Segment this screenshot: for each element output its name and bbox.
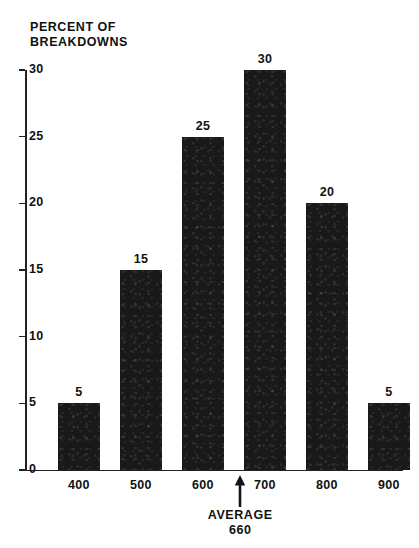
- bar-value-label-400: 5: [46, 385, 112, 399]
- x-axis-label-800: 800: [294, 478, 360, 492]
- x-axis-label-600: 600: [170, 478, 236, 492]
- bar-value-label-900: 5: [356, 385, 419, 399]
- plot-area: 051015202530 5152530205 4005006007008009…: [0, 0, 419, 548]
- y-tick-mark: [19, 203, 25, 205]
- y-tick-mark: [19, 403, 25, 405]
- y-tick-mark: [19, 136, 25, 138]
- bar-value-label-500: 15: [108, 252, 174, 266]
- y-tick-mark: [19, 69, 25, 71]
- y-tick-mark: [19, 336, 25, 338]
- bar-chart: PERCENT OF BREAKDOWNS 051015202530 51525…: [0, 0, 419, 548]
- y-tick-mark: [19, 469, 25, 471]
- x-axis-label-900: 900: [356, 478, 419, 492]
- x-axis-label-500: 500: [108, 478, 174, 492]
- y-tick-label: 10: [29, 329, 57, 343]
- bar-700: [244, 70, 286, 470]
- y-axis-line: [25, 70, 27, 471]
- bar-value-label-800: 20: [294, 185, 360, 199]
- y-tick-label: 25: [29, 129, 57, 143]
- bar-500: [120, 270, 162, 470]
- bar-value-label-600: 25: [170, 119, 236, 133]
- y-tick-label: 20: [29, 195, 57, 209]
- x-axis-label-400: 400: [46, 478, 112, 492]
- y-tick-mark: [19, 269, 25, 271]
- average-label: AVERAGE 660: [172, 508, 308, 538]
- bar-400: [58, 403, 100, 470]
- up-arrow-icon: [232, 474, 248, 508]
- bar-600: [182, 137, 224, 470]
- bar-value-label-700: 30: [232, 52, 298, 66]
- y-tick-label: 0: [29, 462, 57, 476]
- y-tick-label: 15: [29, 262, 57, 276]
- y-tick-label: 30: [29, 62, 57, 76]
- bar-800: [306, 203, 348, 470]
- bar-900: [368, 403, 410, 470]
